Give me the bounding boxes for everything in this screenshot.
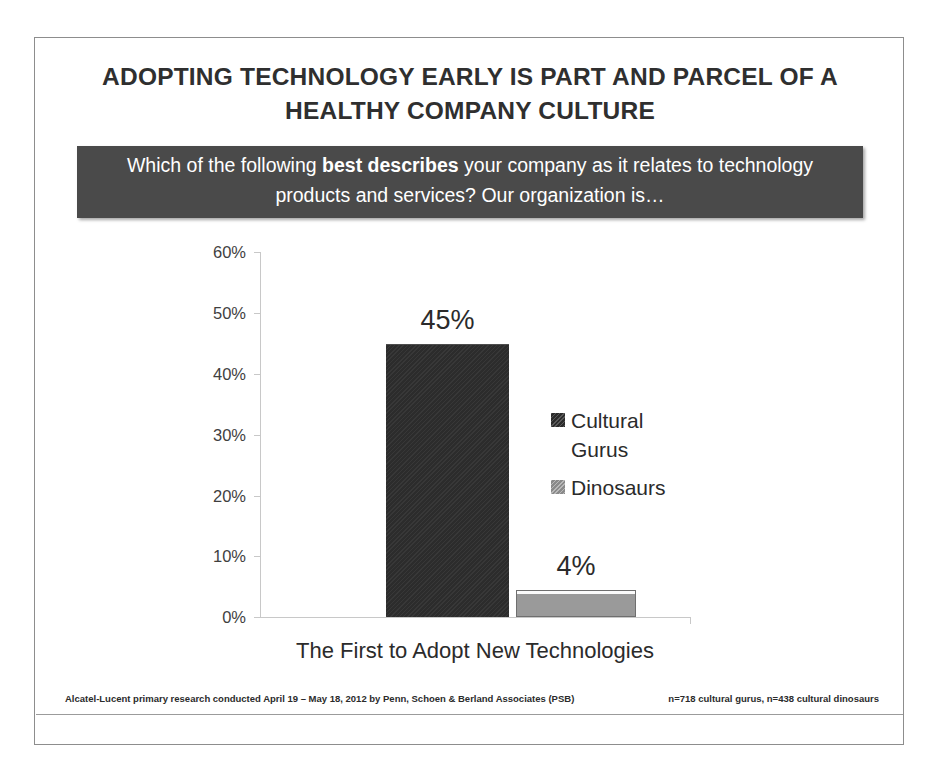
x-axis-end-tick (690, 617, 691, 624)
legend-item-cultural-gurus[interactable]: Cultural Gurus (551, 406, 711, 464)
legend-swatch-icon-cultural-gurus (551, 413, 565, 427)
y-axis-label-0: 0% (178, 609, 246, 626)
bar-value-label-dinosaurs: 4% (516, 553, 636, 580)
question-banner: Which of the following best describes yo… (77, 146, 863, 218)
slide-footer: Alcatel-Lucent primary research conducte… (35, 693, 903, 715)
y-tick-0 (254, 617, 261, 618)
x-axis-line (260, 617, 691, 618)
bar-dinosaurs[interactable] (516, 590, 636, 617)
y-axis-label-50: 50% (178, 305, 246, 322)
question-prefix: Which of the following (127, 154, 322, 176)
bar-value-label-cultural-gurus: 45% (386, 307, 509, 334)
question-text: Which of the following best describes yo… (103, 150, 837, 210)
page-title: ADOPTING TECHNOLOGY EARLY IS PART AND PA… (83, 60, 857, 128)
legend-item-dinosaurs[interactable]: Dinosaurs (551, 473, 711, 502)
footer-source-text: Alcatel-Lucent primary research conducte… (65, 693, 574, 704)
y-axis-label-20: 20% (178, 488, 246, 505)
bar-chart: 0% 10% 20% 30% 40% 50% 60% 45% 4% Cultur… (35, 226, 903, 696)
x-axis-title: The First to Adopt New Technologies (195, 638, 755, 664)
legend-label-dinosaurs: Dinosaurs (571, 473, 666, 502)
footer-divider (36, 714, 904, 715)
chart-legend: Cultural Gurus Dinosaurs (551, 406, 711, 502)
legend-swatch-icon-dinosaurs (551, 480, 565, 494)
footer-sample-size-text: n=718 cultural gurus, n=438 cultural din… (668, 693, 879, 704)
bar-cultural-gurus[interactable] (386, 344, 509, 617)
question-emphasis: best describes (322, 154, 459, 176)
legend-label-cultural-gurus: Cultural Gurus (571, 406, 691, 464)
y-axis-label-10: 10% (178, 548, 246, 565)
y-axis-label-40: 40% (178, 366, 246, 383)
y-axis-label-60: 60% (178, 244, 246, 261)
slide-canvas: ADOPTING TECHNOLOGY EARLY IS PART AND PA… (34, 37, 904, 745)
y-axis-label-30: 30% (178, 427, 246, 444)
